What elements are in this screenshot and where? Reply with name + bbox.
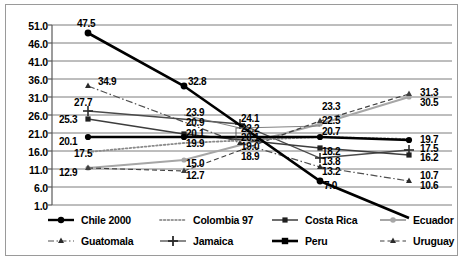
legend-label: Peru bbox=[305, 235, 328, 247]
legend-label: Chile 2000 bbox=[81, 214, 131, 226]
data-label: 18.9 bbox=[241, 151, 259, 162]
legend-key-colombia-97-icon bbox=[158, 214, 188, 226]
legend-key-costa-rica-icon bbox=[270, 214, 300, 226]
data-label: 19.9 bbox=[186, 138, 204, 149]
legend-key-peru-icon bbox=[270, 235, 300, 247]
data-label: 20.9 bbox=[186, 117, 204, 128]
y-axis bbox=[47, 25, 52, 205]
data-label: 32.8 bbox=[188, 76, 206, 87]
legend-label: Colombia 97 bbox=[193, 214, 253, 226]
data-label: 7.0 bbox=[324, 180, 337, 191]
legend-row-2: Guatomala Jamaica bbox=[30, 231, 450, 251]
legend-key-jamaica-icon bbox=[158, 235, 188, 247]
data-label: 23.3 bbox=[322, 101, 340, 112]
legend-item-jamaica[interactable]: Jamaica bbox=[158, 231, 233, 251]
data-label: 17.5 bbox=[74, 148, 92, 159]
data-label: 34.9 bbox=[98, 76, 116, 87]
legend-item-chile-2000[interactable]: Chile 2000 bbox=[46, 210, 131, 230]
data-label: 47.5 bbox=[77, 18, 95, 29]
chart-container: 51.0 46.0 41.0 36.0 31.0 26.0 21.0 16.0 … bbox=[0, 0, 463, 261]
legend-label: Ecuador bbox=[413, 214, 454, 226]
legend-item-costa-rica[interactable]: Costa Rica bbox=[270, 210, 357, 230]
legend-item-uruguay[interactable]: Uruguay bbox=[378, 231, 454, 251]
data-label: 30.5 bbox=[420, 97, 438, 108]
data-label: 20.1 bbox=[59, 136, 77, 147]
legend-label: Uruguay bbox=[413, 235, 454, 247]
legend-item-guatomala[interactable]: Guatomala bbox=[46, 231, 133, 251]
data-label: 16.2 bbox=[420, 152, 438, 163]
legend-key-guatomala-icon bbox=[46, 235, 76, 247]
data-label: 25.3 bbox=[59, 114, 77, 125]
data-label: 13.2 bbox=[322, 166, 340, 177]
data-label: 12.9 bbox=[59, 167, 77, 178]
legend-label: Jamaica bbox=[193, 235, 233, 247]
legend-key-uruguay-icon bbox=[378, 235, 408, 247]
legend-item-ecuador[interactable]: Ecuador bbox=[378, 210, 454, 230]
legend-key-ecuador-icon bbox=[378, 214, 408, 226]
data-label: 22.5 bbox=[322, 115, 340, 126]
legend-item-peru[interactable]: Peru bbox=[270, 231, 328, 251]
data-label: 10.6 bbox=[420, 180, 438, 191]
data-label: 27.7 bbox=[74, 97, 92, 108]
legend-label: Costa Rica bbox=[305, 214, 357, 226]
legend-label: Guatomala bbox=[81, 235, 133, 247]
data-label: 15.0 bbox=[186, 158, 204, 169]
chart-legend: Chile 2000 Colombia 97 Costa Rica bbox=[30, 210, 450, 256]
legend-item-colombia-97[interactable]: Colombia 97 bbox=[158, 210, 253, 230]
legend-row-1: Chile 2000 Colombia 97 Costa Rica bbox=[30, 210, 450, 230]
legend-key-chile-2000-icon bbox=[46, 214, 76, 226]
data-label: 12.7 bbox=[186, 170, 204, 181]
data-label: 20.7 bbox=[322, 126, 340, 137]
